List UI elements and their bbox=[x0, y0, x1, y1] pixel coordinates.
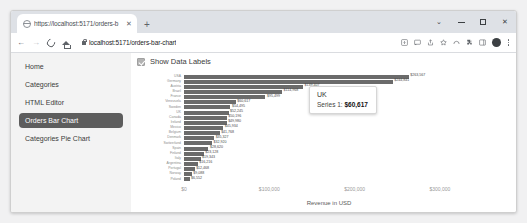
extensions-arc-icon[interactable] bbox=[453, 39, 460, 46]
sidebar-item-categories[interactable]: Categories bbox=[19, 77, 123, 92]
bar-mexico[interactable] bbox=[184, 126, 223, 130]
browser-tab[interactable]: https://localhost:5171/orders-b ✕ bbox=[17, 14, 137, 33]
y-label-austria: Austria bbox=[170, 85, 181, 88]
tooltip-series-label: Series 1: bbox=[317, 101, 343, 108]
data-label-italy: $19,343 bbox=[202, 156, 215, 160]
data-label-denmark: $35,327 bbox=[216, 136, 229, 140]
y-label-mexico: Mexico bbox=[170, 126, 181, 129]
screenshot-root: https://localhost:5171/orders-b ✕ + ⌄ ✕ … bbox=[0, 0, 527, 223]
omnibox-row: ← → localhost:5171/orders-bar-chart bbox=[11, 33, 516, 53]
show-data-labels-label: Show Data Labels bbox=[150, 57, 211, 66]
y-label-finland: Finland bbox=[170, 152, 181, 155]
reload-icon[interactable] bbox=[45, 37, 56, 48]
data-label-portugal: $12,468 bbox=[196, 167, 209, 171]
bar-finland[interactable] bbox=[184, 152, 204, 156]
tab-strip: https://localhost:5171/orders-b ✕ + ⌄ ✕ bbox=[11, 11, 516, 33]
bar-germany[interactable] bbox=[184, 80, 393, 84]
bar-venezuela[interactable] bbox=[184, 100, 236, 104]
bar-usa[interactable] bbox=[184, 75, 409, 79]
data-label-uk: $52,245 bbox=[230, 110, 243, 114]
bar-france[interactable] bbox=[184, 95, 265, 99]
address-bar-text: localhost:5171/orders-bar-chart bbox=[89, 39, 176, 46]
y-label-germany: Germany bbox=[167, 80, 181, 83]
window-close-button[interactable]: ✕ bbox=[494, 11, 516, 33]
data-label-brazil: $114,968 bbox=[284, 89, 299, 93]
data-label-finland: $23,128 bbox=[205, 151, 218, 155]
share-icon[interactable] bbox=[427, 39, 434, 46]
x-tick-0: $0 bbox=[181, 186, 187, 192]
page-body: Home Categories HTML Editor Orders Bar C… bbox=[11, 53, 516, 213]
y-label-spain: Spain bbox=[172, 147, 181, 150]
y-label-ireland: Ireland bbox=[171, 121, 181, 124]
y-label-brazil: Brazil bbox=[173, 90, 181, 93]
data-label-norway: $9,088 bbox=[193, 172, 204, 176]
show-data-labels-row[interactable]: Show Data Labels bbox=[137, 57, 516, 66]
y-label-argentina: Argentina bbox=[166, 162, 181, 165]
data-label-germany: $244,841 bbox=[394, 79, 409, 83]
sidebar-nav: Home Categories HTML Editor Orders Bar C… bbox=[11, 53, 131, 213]
chart-y-axis-labels: USAGermanyAustriaBrazilFranceVenezuelaSw… bbox=[137, 74, 182, 182]
y-label-portugal: Portugal bbox=[168, 167, 181, 170]
data-label-switzerland: $32,920 bbox=[214, 141, 227, 145]
sidebar-item-home[interactable]: Home bbox=[19, 59, 123, 74]
bar-belgium[interactable] bbox=[184, 131, 220, 135]
y-label-venezuela: Venezuela bbox=[165, 100, 181, 103]
tab-title: https://localhost:5171/orders-b bbox=[34, 20, 123, 27]
sidebar-item-html-editor[interactable]: HTML Editor bbox=[19, 95, 123, 110]
data-label-mexico: $45,934 bbox=[225, 125, 238, 129]
bar-switzerland[interactable] bbox=[184, 141, 212, 145]
x-tick-3: $300,000 bbox=[429, 186, 450, 192]
bar-uk[interactable] bbox=[184, 111, 229, 115]
data-label-spain: $28,620 bbox=[210, 146, 223, 150]
tooltip-series-row: Series 1: $60,617 bbox=[317, 101, 368, 108]
forward-arrow-icon: → bbox=[32, 39, 40, 47]
browser-window: https://localhost:5171/orders-b ✕ + ⌄ ✕ … bbox=[10, 10, 517, 213]
data-label-argentina: $16,216 bbox=[199, 161, 212, 165]
window-controls: ⌄ ✕ bbox=[428, 11, 516, 33]
data-label-france: $95,499 bbox=[267, 95, 280, 99]
data-label-ireland: $49,980 bbox=[228, 120, 241, 124]
data-label-belgium: $41,768 bbox=[221, 131, 234, 135]
orders-bar-chart: USAGermanyAustriaBrazilFranceVenezuelaSw… bbox=[137, 70, 499, 210]
kebab-menu-icon[interactable] bbox=[507, 39, 510, 45]
y-label-poland: Poland bbox=[170, 178, 181, 181]
extensions-puzzle-icon[interactable] bbox=[466, 39, 473, 46]
y-label-usa: USA bbox=[174, 75, 181, 78]
data-label-canada: $50,196 bbox=[228, 115, 241, 119]
profile-avatar-icon[interactable] bbox=[492, 38, 501, 47]
browser-toolbar-icons bbox=[401, 38, 510, 47]
sidepanel-icon[interactable] bbox=[479, 39, 486, 46]
bar-denmark[interactable] bbox=[184, 136, 214, 140]
show-data-labels-checkbox[interactable] bbox=[137, 58, 145, 66]
main-content: Show Data Labels USAGermanyAustriaBrazil… bbox=[131, 53, 516, 213]
bar-ireland[interactable] bbox=[184, 121, 227, 125]
lock-icon bbox=[82, 41, 86, 45]
bar-italy[interactable] bbox=[184, 157, 201, 161]
maximize-button[interactable] bbox=[472, 11, 494, 33]
new-tab-button[interactable]: + bbox=[144, 20, 150, 30]
bookmark-star-icon[interactable] bbox=[440, 39, 447, 46]
y-label-canada: Canada bbox=[169, 116, 181, 119]
x-tick-1: $100,000 bbox=[259, 186, 280, 192]
sidebar-item-orders-bar-chart[interactable]: Orders Bar Chart bbox=[19, 113, 123, 128]
bar-sweden[interactable] bbox=[184, 105, 230, 109]
y-label-sweden: Sweden bbox=[169, 106, 181, 109]
y-label-switzerland: Switzerland bbox=[163, 142, 181, 145]
minimize-button[interactable] bbox=[450, 11, 472, 33]
chevron-down-icon[interactable]: ⌄ bbox=[428, 11, 450, 33]
bar-poland[interactable] bbox=[184, 177, 190, 181]
tooltip-value: $60,617 bbox=[344, 101, 368, 108]
data-label-usa: $263,567 bbox=[410, 74, 425, 78]
chart-x-axis: $0$100,000$200,000$300,000 bbox=[184, 186, 474, 198]
bar-canada[interactable] bbox=[184, 116, 227, 120]
chart-tooltip: UK Series 1: $60,617 bbox=[309, 86, 377, 114]
close-icon[interactable]: ✕ bbox=[126, 20, 132, 27]
back-arrow-icon[interactable]: ← bbox=[17, 39, 25, 47]
install-app-icon[interactable] bbox=[401, 39, 408, 46]
y-label-italy: Italy bbox=[175, 157, 181, 160]
sidebar-item-categories-pie-chart[interactable]: Categories Pie Chart bbox=[19, 131, 123, 146]
y-label-uk: UK bbox=[176, 111, 181, 114]
screencast-icon[interactable] bbox=[414, 39, 421, 46]
address-bar[interactable]: localhost:5171/orders-bar-chart bbox=[77, 36, 394, 49]
home-icon[interactable] bbox=[62, 41, 70, 45]
